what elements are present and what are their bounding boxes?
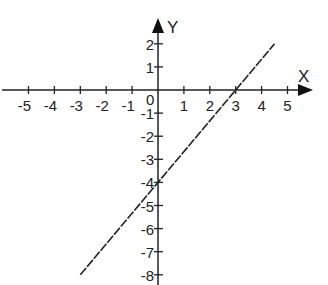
y-ticks: 21-1-2-3-4-5-6-7-8 — [141, 36, 163, 284]
y-tick-label: -7 — [141, 244, 154, 261]
x-tick-label: -4 — [44, 97, 57, 114]
series-line — [80, 44, 274, 275]
x-tick-label: 3 — [232, 97, 240, 114]
x-tick-label: 1 — [180, 97, 188, 114]
x-tick-label: 2 — [206, 97, 214, 114]
y-tick-label: -2 — [141, 128, 154, 145]
x-tick-label: 4 — [257, 97, 265, 114]
x-tick-label: -3 — [70, 97, 83, 114]
y-axis-label: Y — [167, 18, 178, 37]
x-tick-label: 5 — [283, 97, 291, 114]
y-axis-arrow-icon — [152, 18, 164, 33]
y-tick-label: -8 — [141, 267, 154, 284]
y-tick-label: -1 — [141, 105, 154, 122]
x-tick-label: -1 — [121, 97, 134, 114]
x-tick-label: -2 — [96, 97, 109, 114]
x-tick-label: -5 — [18, 97, 31, 114]
y-tick-label: 2 — [146, 36, 154, 53]
x-axis-label: X — [298, 67, 309, 86]
y-tick-label: -3 — [141, 151, 154, 168]
y-tick-label: -6 — [141, 221, 154, 238]
y-tick-label: 1 — [146, 59, 154, 76]
coordinate-plot: X Y 0 -5-4-3-2-112345 21-1-2-3-4-5-6-7-8 — [0, 0, 328, 285]
